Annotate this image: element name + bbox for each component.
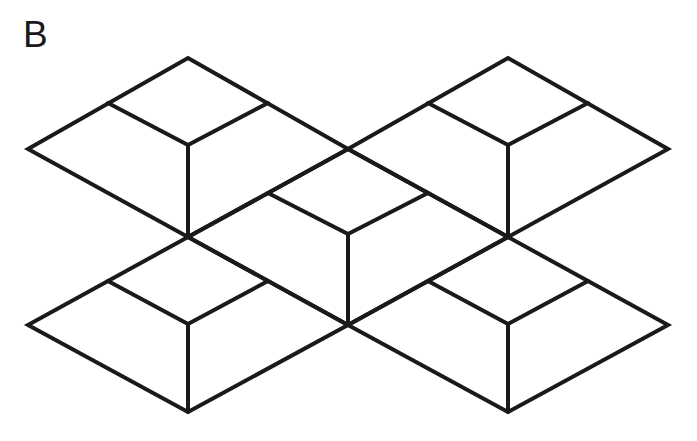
panel-label: B: [23, 16, 48, 53]
figure-canvas: B: [0, 0, 697, 441]
figure-background: [0, 0, 697, 441]
isometric-cube-lattice-svg: [0, 0, 697, 441]
